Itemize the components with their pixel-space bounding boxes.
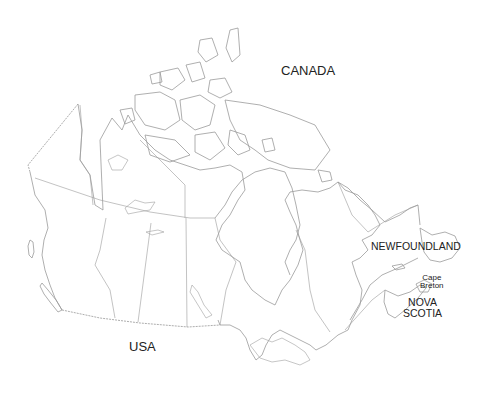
label-nova-scotia-line1: NOVA	[403, 297, 442, 308]
yukon-nwt-border	[80, 105, 93, 205]
label-canada: CANADA	[281, 64, 335, 77]
bc-alberta-border	[95, 218, 115, 318]
haida-gwaii	[28, 240, 34, 258]
territory-border-60th-parallel	[35, 178, 215, 218]
label-newfoundland: NEWFOUNDLAND	[371, 241, 461, 252]
label-nova-scotia: NOVA SCOTIA	[403, 297, 442, 318]
alberta-saskatchewan-border	[138, 223, 151, 322]
lake-winnipeg	[190, 285, 212, 318]
alaska-border	[28, 104, 78, 172]
mainland-coastline	[78, 104, 380, 360]
usa-border	[62, 310, 220, 327]
great-lakes	[250, 338, 310, 365]
lake-athabasca	[146, 230, 164, 235]
label-cape-breton-line2: Breton	[420, 282, 444, 290]
nwt-nunavut-border	[140, 140, 185, 218]
saskatchewan-manitoba-border	[186, 218, 187, 327]
label-nova-scotia-line2: SCOTIA	[403, 308, 442, 319]
hudson-bay-coast	[215, 168, 300, 275]
new-brunswick-border	[345, 290, 385, 330]
labrador-coast	[338, 182, 420, 225]
arctic-archipelago	[120, 28, 332, 182]
ontario-quebec-border	[296, 230, 330, 332]
great-bear-lake	[108, 155, 128, 170]
anticosti-island	[392, 264, 405, 270]
pacific-coastline	[30, 172, 62, 310]
canada-outline-map	[0, 0, 487, 399]
label-cape-breton: Cape Breton	[420, 274, 444, 290]
label-usa: USA	[129, 340, 156, 353]
